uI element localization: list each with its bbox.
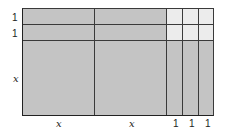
row-label-1: 1 [12,13,18,23]
unit-tile [166,8,183,25]
col-label-x1: x [56,119,62,129]
unit-tile [198,8,214,25]
row-label-2: 1 [12,29,18,39]
unit-tile [166,24,183,41]
col-label-1a: 1 [173,119,179,129]
x-squared-tile [22,40,95,116]
unit-tile [182,24,199,41]
x-tile [94,8,167,25]
col-label-1b: 1 [189,119,195,129]
row-label-x: x [13,74,19,84]
x-tile [22,24,95,41]
x-squared-tile [94,40,167,116]
unit-tile [182,8,199,25]
col-label-1c: 1 [205,119,211,129]
unit-tile [198,24,214,41]
algebra-tile-grid [22,8,214,116]
x-tile [94,24,167,41]
col-label-x2: x [129,119,135,129]
x-tile [166,40,183,116]
x-tile [198,40,214,116]
x-tile [22,8,95,25]
x-tile [182,40,199,116]
